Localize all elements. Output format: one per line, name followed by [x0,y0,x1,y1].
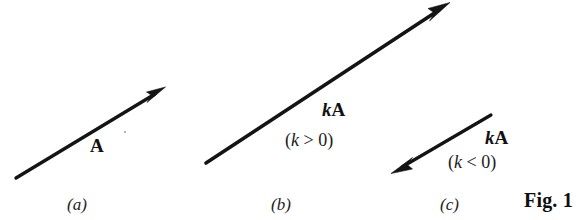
scan-speck [124,131,126,133]
condition-scalar-c: k [454,152,462,172]
vector-label-b: kA [322,100,345,119]
panel-letter-b: (b) [271,196,291,213]
vector-label-a: A [90,136,104,155]
condition-label-c: (k < 0) [448,153,496,171]
vector-symbol-c: A [495,127,509,148]
vector-symbol-b: A [332,99,346,120]
arrow-head-c [391,158,413,174]
condition-relation-c: < 0 [462,152,490,172]
arrow-shaft-a [16,94,155,178]
arrow-panel-a [16,87,166,178]
panel-letter-a: (a) [67,196,87,213]
arrow-head-b [428,3,450,22]
condition-close-paren-c: ) [490,152,496,172]
condition-scalar-b: k [291,130,299,150]
vector-label-c: kA [485,128,508,147]
figure-caption: Fig. 1 [524,190,573,210]
arrow-head-a [147,87,166,103]
condition-close-paren-b: ) [327,130,333,150]
panel-letter-c: (c) [440,196,459,213]
scalar-symbol-b: k [322,99,332,120]
figure-container: A (a) kA (k > 0) (b) kA (k < 0) (c) Fig.… [0,0,585,220]
scalar-symbol-c: k [485,127,495,148]
condition-label-b: (k > 0) [285,131,333,149]
condition-relation-b: > 0 [299,130,327,150]
vector-arrows-canvas [0,0,585,220]
